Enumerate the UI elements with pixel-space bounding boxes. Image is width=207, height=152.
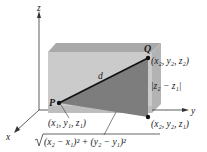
box-side-face bbox=[152, 43, 161, 113]
point-p bbox=[57, 101, 61, 105]
distance-diagram: z y x P Q d (x₂, y₂, z₂) |z₂ − z₁| (x₁, … bbox=[0, 0, 207, 152]
point-p-coords: (x₁, y₁, z₁) bbox=[48, 118, 86, 129]
y-axis-arrow-icon bbox=[182, 108, 189, 112]
x-axis-arrow-icon bbox=[14, 126, 20, 133]
horizontal-leg-label: (x₂ − x₁)² + (y₂ − y₁)² bbox=[44, 137, 126, 148]
x-axis-label: x bbox=[5, 132, 11, 142]
vertical-leg-label: |z₂ − z₁| bbox=[151, 81, 181, 91]
point-q bbox=[146, 56, 150, 60]
point-q-label: Q bbox=[144, 43, 151, 54]
distance-label: d bbox=[98, 71, 103, 81]
z-axis-label: z bbox=[36, 3, 41, 13]
point-q-coords: (x₂, y₂, z₂) bbox=[151, 56, 189, 67]
point-p-label: P bbox=[49, 97, 56, 108]
base-leader bbox=[104, 112, 116, 135]
x-axis bbox=[16, 110, 39, 131]
point-r bbox=[146, 115, 150, 119]
y-axis-label: y bbox=[190, 106, 196, 116]
point-r-coords: (x₂, y₂, z₁) bbox=[151, 119, 189, 130]
